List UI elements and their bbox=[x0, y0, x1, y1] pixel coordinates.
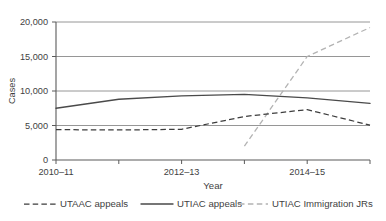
y-axis: 20,000 15,000 10,000 5,000 0 Cases bbox=[7, 17, 56, 165]
y-tick-label-15000: 15,000 bbox=[20, 52, 48, 62]
chart-canvas: 20,000 15,000 10,000 5,000 0 Cases 2010–… bbox=[0, 0, 386, 221]
legend: UTAAC appeals UTIAC appeals UTIAC Immigr… bbox=[24, 198, 373, 209]
y-tick-label-5000: 5,000 bbox=[25, 121, 48, 131]
y-tick-label-10000: 10,000 bbox=[20, 86, 48, 96]
series-group bbox=[56, 28, 370, 147]
x-axis: 2010–11 2012–13 2014–15 Year bbox=[38, 160, 370, 191]
legend-item-utaac-appeals[interactable]: UTAAC appeals bbox=[24, 198, 128, 209]
series-line-utiac-immigration-jrs bbox=[244, 28, 370, 147]
legend-item-utiac-appeals[interactable]: UTIAC appeals bbox=[141, 198, 242, 209]
legend-item-utiac-immigration-jrs[interactable]: UTIAC Immigration JRs bbox=[239, 198, 373, 209]
line-chart: 20,000 15,000 10,000 5,000 0 Cases 2010–… bbox=[0, 0, 386, 221]
legend-label-0: UTAAC appeals bbox=[60, 198, 128, 209]
y-tick-label-20000: 20,000 bbox=[20, 17, 48, 27]
y-tick-label-0: 0 bbox=[43, 155, 48, 165]
x-tick-label-2014-15: 2014–15 bbox=[289, 167, 325, 177]
series-line-utiac-appeals bbox=[56, 94, 370, 108]
legend-label-2: UTIAC Immigration JRs bbox=[272, 198, 373, 209]
legend-label-1: UTIAC appeals bbox=[177, 198, 242, 209]
gridlines bbox=[56, 22, 370, 126]
x-tick-label-2012-13: 2012–13 bbox=[164, 167, 200, 177]
series-line-utaac-appeals bbox=[56, 110, 370, 130]
x-tick-label-2010-11: 2010–11 bbox=[38, 167, 73, 177]
y-axis-title: Cases bbox=[7, 78, 17, 104]
x-axis-title: Year bbox=[203, 180, 223, 191]
